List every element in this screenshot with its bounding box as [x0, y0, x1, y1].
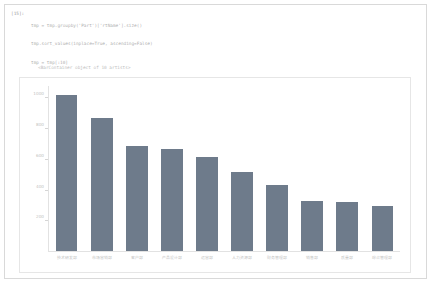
bar-slot: 销售部: [295, 86, 330, 251]
bar: [372, 206, 394, 251]
y-axis-tick-label: 200: [36, 214, 44, 219]
code-line: tmp = tmp.groupby('Part')['rtName'].size…: [31, 23, 421, 29]
bar-slot: 产品设计部: [154, 86, 189, 251]
x-axis-tick-label: 综合管理部: [372, 254, 392, 260]
x-axis-tick-label: 财务管理部: [267, 254, 287, 260]
y-axis-tick-label: 600: [36, 152, 44, 157]
bar-slot: 人力资源部: [224, 86, 259, 251]
bar-slot: 综合管理部: [365, 86, 400, 251]
y-axis-tick-mark: [45, 190, 48, 191]
bar: [161, 149, 183, 251]
y-axis-tick-label: 400: [36, 183, 44, 188]
bar: [126, 146, 148, 251]
code-line: tmp.sort_values(inplace=True, ascending=…: [31, 41, 421, 47]
y-axis-tick-mark: [45, 128, 48, 129]
bar-slot: 客户部: [119, 86, 154, 251]
y-axis-tick-mark: [45, 159, 48, 160]
bar-slot: 运营部: [189, 86, 224, 251]
bar: [231, 172, 253, 251]
x-axis-tick-label: 人力资源部: [232, 254, 252, 260]
x-axis-tick-label: 产品设计部: [162, 254, 182, 260]
x-axis-tick-label: 技术研发部: [57, 254, 77, 260]
notebook-cell-container: [15]: tmp = tmp.groupby('Part')['rtName'…: [4, 4, 427, 279]
x-axis-tick-label: 市场营销部: [92, 254, 112, 260]
bar-series: 技术研发部市场营销部客户部产品设计部运营部人力资源部财务管理部销售部质量部综合管…: [49, 86, 400, 251]
bar: [196, 157, 218, 251]
y-axis-tick-mark: [45, 220, 48, 221]
x-axis-tick-label: 客户部: [131, 254, 143, 260]
x-axis-line: [48, 251, 400, 252]
x-axis-tick-label: 质量部: [341, 254, 353, 260]
bar-slot: 技术研发部: [49, 86, 84, 251]
bar: [91, 118, 113, 251]
bar: [336, 202, 358, 251]
x-axis-tick-label: 运营部: [201, 254, 213, 260]
bar: [56, 95, 78, 251]
cell-text-output: <BarContainer object of 10 artists>: [38, 65, 131, 71]
y-axis-tick-label: 1000: [33, 91, 44, 96]
y-axis-tick-mark: [45, 97, 48, 98]
cell-prompt-label: [15]:: [11, 10, 31, 17]
bar: [266, 185, 288, 251]
matplotlib-figure-output: 2004006008001000 技术研发部市场营销部客户部产品设计部运营部人力…: [19, 77, 411, 273]
bar-slot: 财务管理部: [260, 86, 295, 251]
plot-area: 2004006008001000 技术研发部市场营销部客户部产品设计部运营部人力…: [48, 86, 400, 252]
bar: [301, 201, 323, 251]
x-axis-tick-label: 销售部: [306, 254, 318, 260]
bar-slot: 市场营销部: [84, 86, 119, 251]
y-axis-tick-label: 800: [36, 122, 44, 127]
bar-slot: 质量部: [330, 86, 365, 251]
